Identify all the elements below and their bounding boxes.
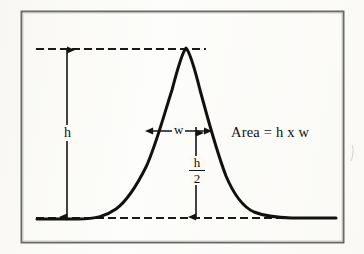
width-label: w (172, 123, 185, 136)
half-height-fraction: h 2 (189, 156, 205, 185)
figure-page: h w Area = h x w h 2 (0, 0, 364, 254)
area-equation-label: Area = h x w (231, 124, 309, 140)
half-height-numerator: h (189, 156, 205, 169)
height-label: h (62, 125, 73, 141)
scan-artifact-mark (351, 145, 353, 161)
half-height-denominator: 2 (189, 172, 205, 185)
